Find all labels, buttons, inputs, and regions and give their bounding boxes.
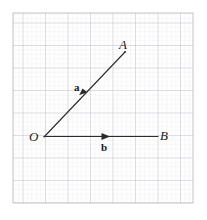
point-label-a: A: [119, 38, 127, 51]
vector-label-b: b: [101, 142, 107, 153]
point-label-b: B: [160, 129, 168, 142]
diagram-canvas: [0, 0, 207, 220]
point-label-o: O: [29, 130, 38, 143]
vector-diagram-figure: O A B a b: [0, 0, 207, 220]
grid-background: [13, 13, 193, 203]
vector-label-a: a: [74, 82, 80, 93]
